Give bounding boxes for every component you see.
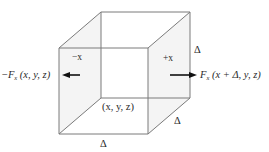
minus-x-face-label: −x [72,53,82,63]
cube-flux-diagram: −x +x (x, y, z) Δ Δ Δ −Fx (x, y, z) Fx (… [0,0,269,152]
plus-x-face-label: +x [163,54,173,64]
flux-left-args: (x, y, z) [20,69,50,80]
delta-width-label: Δ [100,139,107,150]
flux-right-args: (x + Δ, y, z) [212,69,261,80]
flux-right-label: Fx (x + Δ, y, z) [200,70,261,82]
corner-point-label: (x, y, z) [102,102,134,113]
delta-depth-label: Δ [174,116,181,127]
flux-right-subscript: x [206,74,209,81]
flux-left-subscript: x [14,74,17,81]
flux-left-label: −Fx (x, y, z) [2,70,50,82]
delta-height-label: Δ [194,45,201,56]
